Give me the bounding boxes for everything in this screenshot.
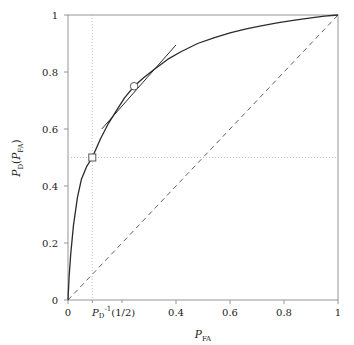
special-tick-arg: (1/2) <box>111 307 135 318</box>
y-tick-label-0_6: 0.6 <box>42 124 58 135</box>
special-tick-sub: D <box>99 312 105 320</box>
x-tick-label-0: 0 <box>65 307 71 318</box>
y-tick-label-0_8: 0.8 <box>42 67 58 78</box>
x-special-tick-label: PD-1(1/2) <box>91 305 135 320</box>
y-tick-label-0_2: 0.2 <box>42 238 58 249</box>
roc-figure: 0 0.4 0.6 0.8 1 PD-1(1/2) 0 0.2 0.4 0.6 … <box>0 0 354 345</box>
tangency-point-marker <box>130 82 138 90</box>
y-axis-title-close: ) <box>10 139 22 143</box>
svg-text:PD(PFA): PD(PFA) <box>10 139 25 177</box>
x-tick-label-0_4: 0.4 <box>168 307 184 318</box>
x-axis-ticks <box>68 300 338 304</box>
x-axis-title: PFA <box>194 328 212 343</box>
y-tick-label-1: 1 <box>52 10 58 21</box>
x-axis-title-sub: FA <box>202 335 212 343</box>
y-axis-ticks <box>64 15 68 300</box>
roc-plot-svg: 0 0.4 0.6 0.8 1 PD-1(1/2) 0 0.2 0.4 0.6 … <box>0 0 354 345</box>
half-detection-point-marker <box>89 154 96 161</box>
svg-text:PFA: PFA <box>194 328 212 343</box>
y-axis-title: PD(PFA) <box>10 139 25 177</box>
x-tick-label-0_8: 0.8 <box>276 307 292 318</box>
svg-text:PD-1(1/2): PD-1(1/2) <box>91 305 135 320</box>
y-tick-label-0_4: 0.4 <box>42 181 58 192</box>
y-tick-label-0: 0 <box>52 295 58 306</box>
special-tick-sup: -1 <box>104 305 111 313</box>
x-tick-label-0_6: 0.6 <box>222 307 238 318</box>
x-tick-label-1: 1 <box>335 307 341 318</box>
